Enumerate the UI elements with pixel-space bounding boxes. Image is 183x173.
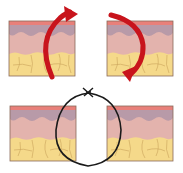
- skin-block-bottom-left: [10, 106, 76, 161]
- skin-block-top-left: [9, 21, 75, 76]
- skin-flap-diagram: [0, 0, 183, 173]
- wound-gap: [77, 104, 106, 164]
- suture-knot-icon: [83, 88, 93, 97]
- skin-block-top-right: [107, 21, 173, 76]
